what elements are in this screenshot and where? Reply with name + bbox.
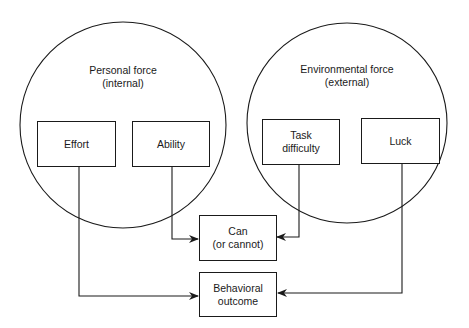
environmental-force-subtitle: (external): [287, 76, 407, 89]
environmental-force-label: Environmental force (external): [287, 63, 407, 89]
behavioral-outcome-box: Behavioral outcome: [199, 272, 277, 317]
arrow-luck-to-outcome: [278, 163, 402, 293]
arrow-task-to-can: [277, 164, 299, 237]
luck-label: Luck: [389, 135, 411, 148]
personal-force-title: Personal force: [73, 64, 173, 77]
behavioral-outcome-label: Behavioral outcome: [213, 282, 263, 308]
effort-label: Effort: [64, 138, 89, 151]
arrow-effort-to-outcome: [79, 166, 198, 296]
ability-label: Ability: [157, 138, 185, 151]
can-box: Can (or cannot): [199, 215, 277, 261]
environmental-force-title: Environmental force: [287, 63, 407, 76]
effort-box: Effort: [37, 121, 116, 167]
ability-box: Ability: [132, 121, 210, 167]
can-label: Can (or cannot): [213, 225, 264, 251]
personal-force-label: Personal force (internal): [73, 64, 173, 90]
task-difficulty-box: Task difficulty: [262, 119, 340, 165]
task-difficulty-label: Task difficulty: [282, 129, 320, 155]
arrow-ability-to-can: [172, 166, 198, 239]
personal-force-subtitle: (internal): [73, 77, 173, 90]
luck-box: Luck: [361, 118, 440, 164]
